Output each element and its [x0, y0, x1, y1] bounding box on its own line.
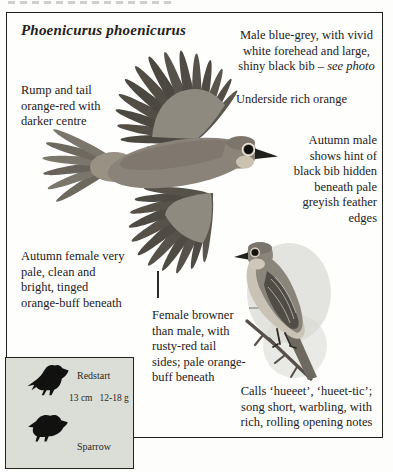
length-value: 13 cm: [69, 393, 92, 403]
redstart-silhouette-icon: [26, 363, 70, 397]
size-comparison-box: Redstart 13 cm 12-18 g Sparrow: [5, 357, 134, 469]
see-photo-reference: see photo: [327, 59, 375, 73]
upper-wing: [114, 49, 240, 144]
eye: [244, 145, 253, 154]
eye: [252, 249, 259, 256]
book-page: Phoenicurus phoenicurus Male blue-grey, …: [0, 0, 393, 472]
perched-redstart-illustration: [233, 231, 333, 396]
head: [221, 136, 278, 169]
lower-wing: [127, 184, 217, 275]
redstart-label: Redstart: [77, 370, 110, 381]
size-measurements: 13 cm 12-18 g: [69, 393, 129, 403]
weight-value: 12-18 g: [99, 393, 128, 403]
cropped-header-fragment: [8, 1, 176, 4]
beak: [255, 149, 278, 160]
sparrow-label: Sparrow: [77, 441, 111, 452]
sparrow-silhouette-icon: [26, 412, 70, 443]
beak: [234, 253, 248, 260]
